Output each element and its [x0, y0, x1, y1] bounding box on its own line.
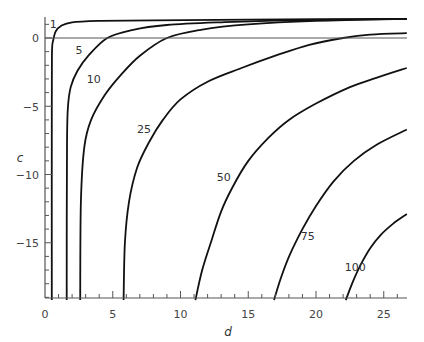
curve-10: [80, 19, 407, 300]
curve-75: [274, 130, 407, 301]
y-axis-title: c: [17, 151, 24, 165]
y-tick-label-neg5: −5: [23, 101, 39, 114]
curve-25: [124, 33, 407, 300]
x-tick-label-15: 15: [241, 308, 255, 321]
curve-label-5: 5: [75, 44, 82, 57]
x-tick-label-10: 10: [174, 308, 188, 321]
curve-labels: 1510255075100: [50, 18, 366, 274]
curve-label-50: 50: [217, 171, 231, 184]
y-tick-label-neg10: −10: [16, 169, 39, 182]
contour-chart: 1510255075100 0 5 10 15 20 25 0 −5 −10 −…: [0, 0, 424, 342]
y-tick-label-0: 0: [32, 32, 39, 45]
x-tick-label-5: 5: [109, 308, 116, 321]
y-tick-label-neg15: −15: [16, 237, 39, 250]
curve-label-75: 75: [301, 230, 315, 243]
curve-1: [52, 19, 407, 300]
curve-100: [346, 214, 407, 300]
curve-label-25: 25: [137, 123, 151, 136]
x-axis-title: d: [224, 325, 232, 339]
curve-label-100: 100: [345, 261, 366, 274]
x-tick-label-25: 25: [377, 308, 391, 321]
x-tick-label-0: 0: [42, 308, 49, 321]
curve-label-1: 1: [50, 18, 57, 31]
curve-label-10: 10: [87, 73, 101, 86]
curve-group: [52, 19, 407, 300]
x-tick-label-20: 20: [309, 308, 323, 321]
